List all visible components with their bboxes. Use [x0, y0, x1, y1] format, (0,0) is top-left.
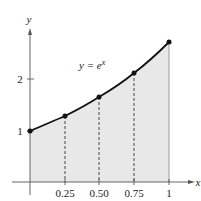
- y-axis-label: y: [26, 13, 32, 25]
- chart-container: y = ex y x 2 1 0.25 0.50 0.75 1: [0, 0, 201, 201]
- data-point: [132, 71, 137, 76]
- data-point: [167, 40, 172, 45]
- x-axis-label: x: [195, 176, 201, 188]
- data-point: [28, 129, 33, 134]
- x-tick-label-050: 0.50: [89, 187, 109, 199]
- x-axis-arrow-icon: [188, 180, 195, 184]
- exp-area-chart: y = ex y x 2 1 0.25 0.50 0.75 1: [0, 0, 201, 201]
- y-axis-arrow-icon: [28, 28, 32, 35]
- x-tick-label-1: 1: [166, 187, 172, 199]
- data-point: [63, 114, 68, 119]
- function-label: y = ex: [78, 58, 106, 71]
- y-tick-label-2: 2: [17, 73, 23, 85]
- y-tick-label-1: 1: [17, 125, 23, 137]
- x-tick-label-075: 0.75: [124, 187, 144, 199]
- x-tick-label-025: 0.25: [55, 187, 75, 199]
- data-point: [97, 95, 102, 100]
